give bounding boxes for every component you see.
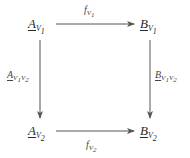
node-b-v1-sub: V1 <box>148 24 157 33</box>
label-f-v1-sub: V1 <box>87 9 95 17</box>
node-a-v1-sub: V1 <box>36 24 45 33</box>
node-b-v1: BV1 <box>140 17 157 32</box>
node-b-v2-main: B <box>140 123 148 138</box>
node-b-v1-main: B <box>140 16 148 31</box>
commutative-diagram: AV1 fV1 BV1 AV1V2 BV1V2 AV2 fV2 BV2 <box>0 0 190 158</box>
node-a-v1-main: A <box>28 16 36 31</box>
label-b-v1v2: BV1V2 <box>155 70 177 80</box>
node-a-v2-sub: V2 <box>36 131 45 140</box>
label-f-v2-sub: V2 <box>89 144 97 152</box>
node-b-v2: BV2 <box>140 124 157 139</box>
label-a-v1v2: AV1V2 <box>7 70 29 80</box>
node-b-v2-sub: V2 <box>148 131 157 140</box>
label-f-v2: fV2 <box>86 140 97 150</box>
label-f-v1: fV1 <box>84 5 95 15</box>
node-a-v1: AV1 <box>28 17 45 32</box>
node-a-v2-main: A <box>28 123 36 138</box>
node-a-v2: AV2 <box>28 124 45 139</box>
